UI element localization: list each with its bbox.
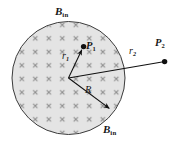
label-b-in-bottom-subscript: in [110, 129, 116, 136]
magnetic-field-figure: Bin Bin P1 P2 r1 r2 R [0, 0, 179, 145]
label-b-in-top-subscript: in [62, 11, 68, 18]
point-p2-dot [162, 59, 167, 64]
label-p1: P1 [86, 41, 96, 52]
label-p1-subscript: 1 [92, 45, 95, 52]
label-radius: R [85, 85, 91, 96]
label-b-in-bottom: Bin [103, 124, 116, 135]
label-b-in-top: Bin [55, 6, 68, 17]
label-p2: P2 [155, 38, 165, 49]
label-r1: r1 [62, 51, 69, 61]
figure-canvas [0, 0, 179, 145]
label-r1-subscript: 1 [66, 55, 69, 62]
label-r2-subscript: 2 [133, 50, 136, 57]
label-r2: r2 [129, 46, 136, 56]
label-p2-subscript: 2 [161, 42, 164, 49]
